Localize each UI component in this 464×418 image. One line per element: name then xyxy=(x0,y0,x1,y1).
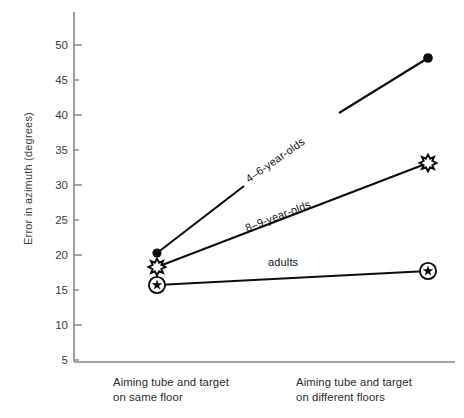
y-axis-tick-labels: 50 45 40 35 30 25 20 15 10 5 xyxy=(55,39,68,366)
y-tick-label-30: 30 xyxy=(55,179,68,191)
category-label-same-floor-line2: on same floor xyxy=(113,391,183,403)
axes xyxy=(74,12,455,362)
y-axis-title: Error in azimuth (degrees) xyxy=(22,112,34,245)
series-8-9-year-olds-label: 8–9-year-olds xyxy=(243,198,312,234)
series-4-6-year-olds: 4–6-year-olds xyxy=(157,58,428,253)
y-tick-label-35: 35 xyxy=(55,144,68,156)
y-axis-ticks xyxy=(74,45,82,360)
series-adults-label: adults xyxy=(268,256,299,268)
y-tick-label-15: 15 xyxy=(55,284,68,296)
marker-filled-circle-4-6-left xyxy=(152,248,161,257)
category-label-different-floors-line1: Aiming tube and target xyxy=(296,376,413,388)
markers-same-floor xyxy=(149,248,166,293)
y-tick-label-20: 20 xyxy=(55,249,68,261)
marker-filled-circle-4-6-right xyxy=(423,53,433,63)
chart-container: 50 45 40 35 30 25 20 15 10 5 Error in az… xyxy=(0,0,464,418)
y-tick-label-40: 40 xyxy=(55,109,68,121)
series-4-6-year-olds-line-segment-1 xyxy=(157,186,244,253)
series-adults-line xyxy=(157,271,428,285)
category-label-different-floors-line2: on different floors xyxy=(296,391,385,403)
marker-circled-star-adults-left xyxy=(149,277,165,293)
marker-starburst-8-9-right xyxy=(420,155,437,172)
marker-circled-star-adults-right xyxy=(420,263,436,279)
y-tick-label-50: 50 xyxy=(55,39,68,51)
series-4-6-year-olds-label: 4–6-year-olds xyxy=(243,135,307,185)
marker-starburst-8-9-left xyxy=(149,259,166,276)
category-label-same-floor-line1: Aiming tube and target xyxy=(113,376,230,388)
series-adults: adults xyxy=(157,256,428,285)
y-tick-label-25: 25 xyxy=(55,214,68,226)
series-4-6-year-olds-line-segment-2 xyxy=(339,58,428,113)
x-axis-category-labels: Aiming tube and target on same floor Aim… xyxy=(113,376,413,403)
azimuth-error-line-chart: 50 45 40 35 30 25 20 15 10 5 Error in az… xyxy=(0,0,464,418)
series-8-9-year-olds: 8–9-year-olds xyxy=(157,163,428,267)
y-tick-label-45: 45 xyxy=(55,74,68,86)
y-tick-label-10: 10 xyxy=(55,319,68,331)
y-tick-label-5: 5 xyxy=(62,354,68,366)
